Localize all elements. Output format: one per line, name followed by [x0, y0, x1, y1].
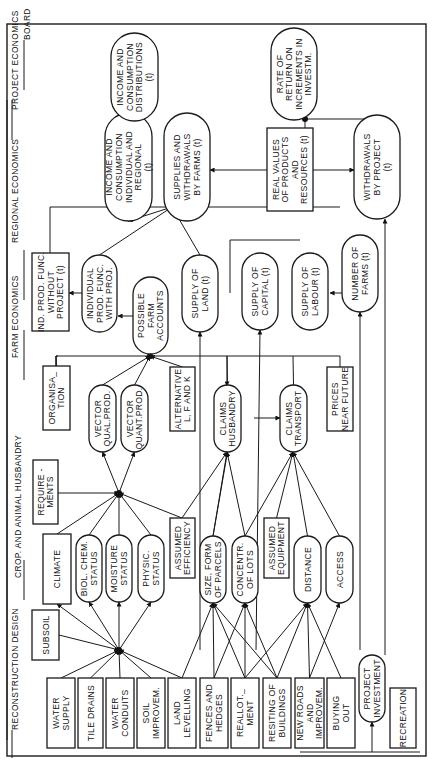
node-label: WITHDRAWALS — [362, 133, 372, 200]
node-new-roads: NEW ROADSANDIMPROVEM. — [295, 678, 324, 748]
node-assumed-efficiency: ASSUMEDEFFICIENCY — [170, 518, 195, 578]
node-label: ORGANISA_ — [47, 372, 57, 425]
node-prices-near-future: PRICESNEAR FUTURE — [327, 367, 353, 431]
node-label: REALLOT._ — [235, 689, 245, 737]
flow-arrow — [56, 356, 340, 367]
node-label: LEVELLING — [182, 688, 192, 738]
node-label: CLIMATE — [52, 550, 62, 589]
node-label: POSSIBLE — [136, 293, 146, 338]
node-water-conduits: WATERCONDUITS — [106, 678, 134, 748]
node-label: ACCESS — [335, 551, 345, 588]
flow-arrow — [310, 603, 340, 678]
node-label: INVESTM. — [303, 53, 313, 96]
flow-arrow — [119, 452, 135, 493]
node-claims-transport: CLAIMSTRANSPORT — [280, 385, 307, 452]
node-income-consumption-dist: INCOME ANDCONSUMPTIONDISTRIBUTIONS(t) — [111, 33, 158, 121]
section-label-crop-animal-husbandry: CROP. AND ANIMAL HUSBANDRY — [13, 435, 23, 578]
node-label: STATUS — [119, 551, 129, 585]
node-buying-out: BUYINGOUT — [327, 678, 355, 748]
node-vector-qual-prod: VECTORQUAL.PROD. — [89, 385, 116, 452]
node-label: PROD. FUNC. — [95, 264, 105, 323]
node-label: REGIONAL — [133, 144, 143, 191]
node-label: AND — [305, 703, 315, 722]
node-possible-farm-accounts: POSSIBLEFARMACCOUNTS — [133, 277, 168, 354]
node-requirements: REQUIRE -MENTS — [33, 460, 58, 524]
node-label: EFFICIENCY — [182, 521, 192, 575]
node-label: INCOME AND — [115, 48, 125, 105]
node-label: WITH PROJ. — [104, 267, 114, 320]
node-label: LAND — [172, 701, 182, 725]
node-label: SIZE, FORM — [203, 543, 213, 595]
node-subsoil: SUBSOIL — [32, 610, 59, 660]
node-label: OF LOTS — [245, 550, 255, 589]
node-label: FENCES AND — [204, 684, 214, 742]
node-label: NUMBER OF — [350, 246, 360, 300]
node-label: RESOURCES (t) — [299, 135, 309, 204]
flow-arrow — [227, 452, 245, 536]
node-rate-of-return: RATE OFRETURN ONINCREMENTS ININVESTM. — [271, 28, 317, 120]
node-label: REAL VALUES — [271, 139, 281, 200]
node-label: ALTERNATIVE — [173, 369, 183, 430]
section-label-project-economics: PROJECT ECONOMICS — [10, 10, 20, 110]
node-soil-improvem: SOILIMPROVEM. — [137, 678, 165, 748]
node-label: IMPROVEM. — [151, 687, 161, 739]
node-label: INCOME AND — [104, 138, 114, 195]
flow-arrow — [56, 356, 57, 366]
flow-arrow — [59, 635, 119, 650]
node-resiting-buildings: RESITING OFBUILDINGS — [263, 678, 291, 748]
flow-arrow — [277, 603, 308, 678]
node-label: NEAR FUTURE — [340, 367, 350, 431]
node-label: SUBSOIL — [41, 615, 51, 654]
node-ind-prod-with: INDIVIDUALPROD. FUNC.WITH PROJ. — [82, 255, 117, 332]
section-label-reconstruction-design: RECONSTRUCTION DESIGN — [10, 608, 20, 730]
node-access: ACCESS — [326, 536, 353, 603]
node-moisture-status: MOISTURESTATUS — [106, 535, 132, 602]
section-label-board: BOARD — [22, 8, 32, 40]
node-label: CONSUMPTION — [114, 133, 124, 201]
junction-dot — [116, 490, 122, 496]
node-label: VECTOR — [125, 400, 135, 437]
node-income-consumption-ind-reg: INCOME ANDCONSUMPTIONINDIVIDUAL ANDREGIO… — [104, 113, 152, 221]
flow-arrow — [61, 650, 119, 678]
node-organisation: ORGANISA_TION — [43, 366, 70, 430]
flow-arrow — [293, 356, 294, 385]
flow-arrow — [213, 603, 214, 678]
flow-arrow — [308, 603, 310, 678]
node-label: RATE OF — [275, 55, 285, 94]
node-label: BY PROJECT — [372, 138, 382, 195]
flow-diagram: RECONSTRUCTION DESIGNCROP. AND ANIMAL HU… — [0, 0, 432, 761]
node-label: OUT — [341, 703, 351, 722]
node-label: NEW ROADS — [295, 685, 305, 741]
node-physic-status: PHYSIC.STATUS — [138, 535, 164, 602]
node-alternative-lfk: ALTERNATIVEL, F AND K — [170, 367, 195, 431]
node-label: (t) — [143, 162, 153, 171]
node-label: CONSUMPTION — [125, 43, 135, 111]
node-tile-drains: TILE DRAINS — [78, 678, 103, 748]
node-label: SUPPLY OF — [190, 268, 200, 318]
node-label: SUPPLY OF — [250, 266, 260, 316]
node-label: VECTOR — [93, 400, 103, 437]
section-label-farm-economics: FARM ECONOMICS — [10, 275, 20, 358]
flow-arrow — [119, 650, 182, 678]
node-label: IND. PROD. FUNC. — [36, 252, 46, 332]
node-real-values: REAL VALUESOF PRODUCTSANDRESOURCES (t) — [267, 128, 313, 211]
flow-arrow — [213, 452, 227, 536]
node-label: STATUS — [151, 551, 161, 585]
node-water-supply: WATERSUPPLY — [47, 678, 75, 748]
flow-arrow — [245, 603, 308, 678]
flow-arrow — [103, 356, 151, 385]
node-assumed-equipment: ASSUMEDEQUIPMENT — [264, 518, 289, 578]
node-label: SUPPLY — [61, 695, 71, 730]
node-label: TRANSPORT — [293, 390, 303, 446]
node-label: BIOL. CHEM. — [79, 541, 89, 596]
node-label: (t) — [144, 72, 154, 81]
node-label: TION — [56, 387, 66, 409]
node-number-farms: NUMBER OFFARMS (t) — [342, 235, 378, 312]
node-label: PRICES — [330, 382, 340, 416]
node-label: DISTRIBUTIONS — [134, 42, 144, 112]
flow-arrow — [245, 603, 277, 678]
node-label: LAND (t) — [200, 276, 210, 312]
node-label: WITHDRAWALS — [182, 133, 192, 200]
node-label: RETURN ON — [284, 47, 294, 101]
node-label: DISTANCE — [303, 547, 313, 592]
